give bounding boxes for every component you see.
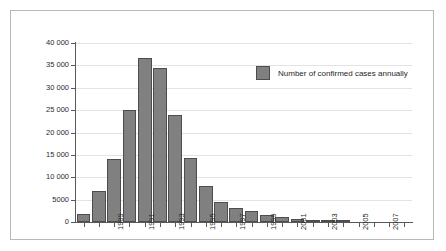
x-axis-tick xyxy=(374,223,375,227)
x-axis-tick xyxy=(328,223,329,227)
x-axis-tick-label: 1989 xyxy=(117,213,125,230)
chart-frame: 0500010 00015 00020 00025 00030 00035 00… xyxy=(10,10,434,240)
bar xyxy=(77,214,91,223)
y-axis-tick-label: 0 xyxy=(17,218,69,226)
x-axis-tick xyxy=(114,223,115,227)
bar xyxy=(138,58,152,222)
y-axis-tick-label: 15 000 xyxy=(17,151,69,159)
x-axis-tick xyxy=(206,223,207,227)
y-axis-tick-label: 25 000 xyxy=(17,106,69,114)
y-axis-labels: 0500010 00015 00020 00025 00030 00035 00… xyxy=(11,11,69,251)
legend-label: Number of confirmed cases annually xyxy=(278,69,408,78)
x-axis-tick-label: 1993 xyxy=(178,213,186,230)
chart-legend: Number of confirmed cases annually xyxy=(256,66,408,80)
x-axis-tick xyxy=(221,223,222,227)
x-axis-tick xyxy=(389,223,390,227)
x-axis-tick xyxy=(145,223,146,227)
x-axis-tick xyxy=(297,223,298,227)
x-axis-tick xyxy=(313,223,314,227)
x-axis-tick xyxy=(129,223,130,227)
x-axis-tick xyxy=(282,223,283,227)
y-axis-tick-label: 10 000 xyxy=(17,173,69,181)
x-axis-tick xyxy=(175,223,176,227)
y-axis-tick-label: 35 000 xyxy=(17,61,69,69)
x-axis-tick xyxy=(267,223,268,227)
x-axis-tick-label: 2005 xyxy=(362,213,370,230)
y-axis-tick-label: 40 000 xyxy=(17,39,69,47)
x-axis-tick-label: 2003 xyxy=(331,213,339,230)
x-axis-tick-label: 2007 xyxy=(392,213,400,230)
bar xyxy=(168,115,182,222)
x-axis-tick xyxy=(84,223,85,227)
x-axis-tick-label: 2001 xyxy=(300,213,308,230)
y-axis-tick-label: 20 000 xyxy=(17,129,69,137)
y-axis-tick-label: 5000 xyxy=(17,196,69,204)
legend-swatch-icon xyxy=(256,66,270,80)
bar xyxy=(92,191,106,222)
x-axis-tick-label: 1991 xyxy=(148,213,156,230)
bar xyxy=(123,110,137,222)
x-axis-tick xyxy=(404,223,405,227)
x-axis-tick xyxy=(236,223,237,227)
x-axis-tick xyxy=(343,223,344,227)
x-axis-tick xyxy=(160,223,161,227)
x-axis-tick xyxy=(191,223,192,227)
x-axis-tick-label: 1995 xyxy=(209,213,217,230)
y-axis-tick-label: 30 000 xyxy=(17,84,69,92)
x-axis-tick-label: 1997 xyxy=(239,213,247,230)
x-axis-tick-label: 1999 xyxy=(270,213,278,230)
x-axis-tick xyxy=(252,223,253,227)
x-axis-tick xyxy=(99,223,100,227)
x-axis-tick xyxy=(359,223,360,227)
bar xyxy=(153,68,167,222)
